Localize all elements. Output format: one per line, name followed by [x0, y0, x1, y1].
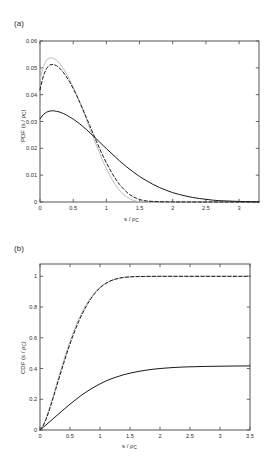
- y-tick-label: 0.05: [26, 65, 37, 71]
- x-tick-label: 2.5: [186, 433, 194, 439]
- x-tick-label: 1.5: [126, 433, 134, 439]
- x-tick-label: 2.5: [202, 205, 210, 211]
- x-tick-label: 2: [158, 433, 161, 439]
- panel-a-x-axis-label: s / ρC: [124, 216, 139, 224]
- panel-b-x-axis-label: s / ρC: [122, 443, 137, 451]
- y-tick-label: 0.4: [29, 366, 37, 372]
- y-tick-label: 0.04: [26, 92, 37, 98]
- y-tick-label: 0.8: [29, 304, 37, 310]
- panel-a-y-axis-label: PDF (s / ρC): [20, 110, 28, 142]
- y-tick-label: 0.2: [29, 396, 37, 402]
- x-tick-label: 0.5: [69, 205, 77, 211]
- y-tick-label: 0.03: [26, 119, 37, 125]
- x-tick-label: 0.5: [66, 433, 74, 439]
- x-tick-label: 1.5: [136, 205, 144, 211]
- data-series-black-solid: [40, 366, 250, 430]
- x-tick-label: 1: [98, 433, 101, 439]
- y-tick-label: 0: [34, 199, 37, 205]
- y-tick-label: 0.01: [26, 172, 37, 178]
- data-series-gray-solid: [40, 276, 250, 430]
- x-tick-label: 3: [238, 205, 241, 211]
- y-tick-label: 0.02: [26, 145, 37, 151]
- data-series-black-dashed: [40, 64, 259, 202]
- y-tick-label: 1: [34, 273, 37, 279]
- data-series-gray-solid: [40, 58, 259, 202]
- panel-a: (a) 00.511.522.5300.010.020.030.040.050.…: [0, 0, 271, 236]
- data-series-black-solid: [40, 111, 259, 202]
- panel-a-plot: 00.511.522.5300.010.020.030.040.050.06: [0, 0, 271, 236]
- x-tick-label: 0: [38, 433, 41, 439]
- x-tick-label: 1: [105, 205, 108, 211]
- panel-b-plot: 00.511.522.533.500.20.40.60.81: [0, 236, 271, 471]
- panel-b: (b) 00.511.522.533.500.20.40.60.81 CDF (…: [0, 236, 271, 471]
- x-tick-label: 3: [218, 433, 221, 439]
- x-tick-label: 2: [171, 205, 174, 211]
- y-tick-label: 0.6: [29, 335, 37, 341]
- y-tick-label: 0.06: [26, 38, 37, 44]
- y-tick-label: 0: [34, 427, 37, 433]
- data-series-black-dashed: [40, 276, 250, 430]
- x-tick-label: 3.5: [246, 433, 254, 439]
- x-tick-label: 0: [38, 205, 41, 211]
- figure-container: (a) 00.511.522.5300.010.020.030.040.050.…: [0, 0, 271, 471]
- panel-b-y-axis-label: CDF (s / ρC): [20, 341, 28, 374]
